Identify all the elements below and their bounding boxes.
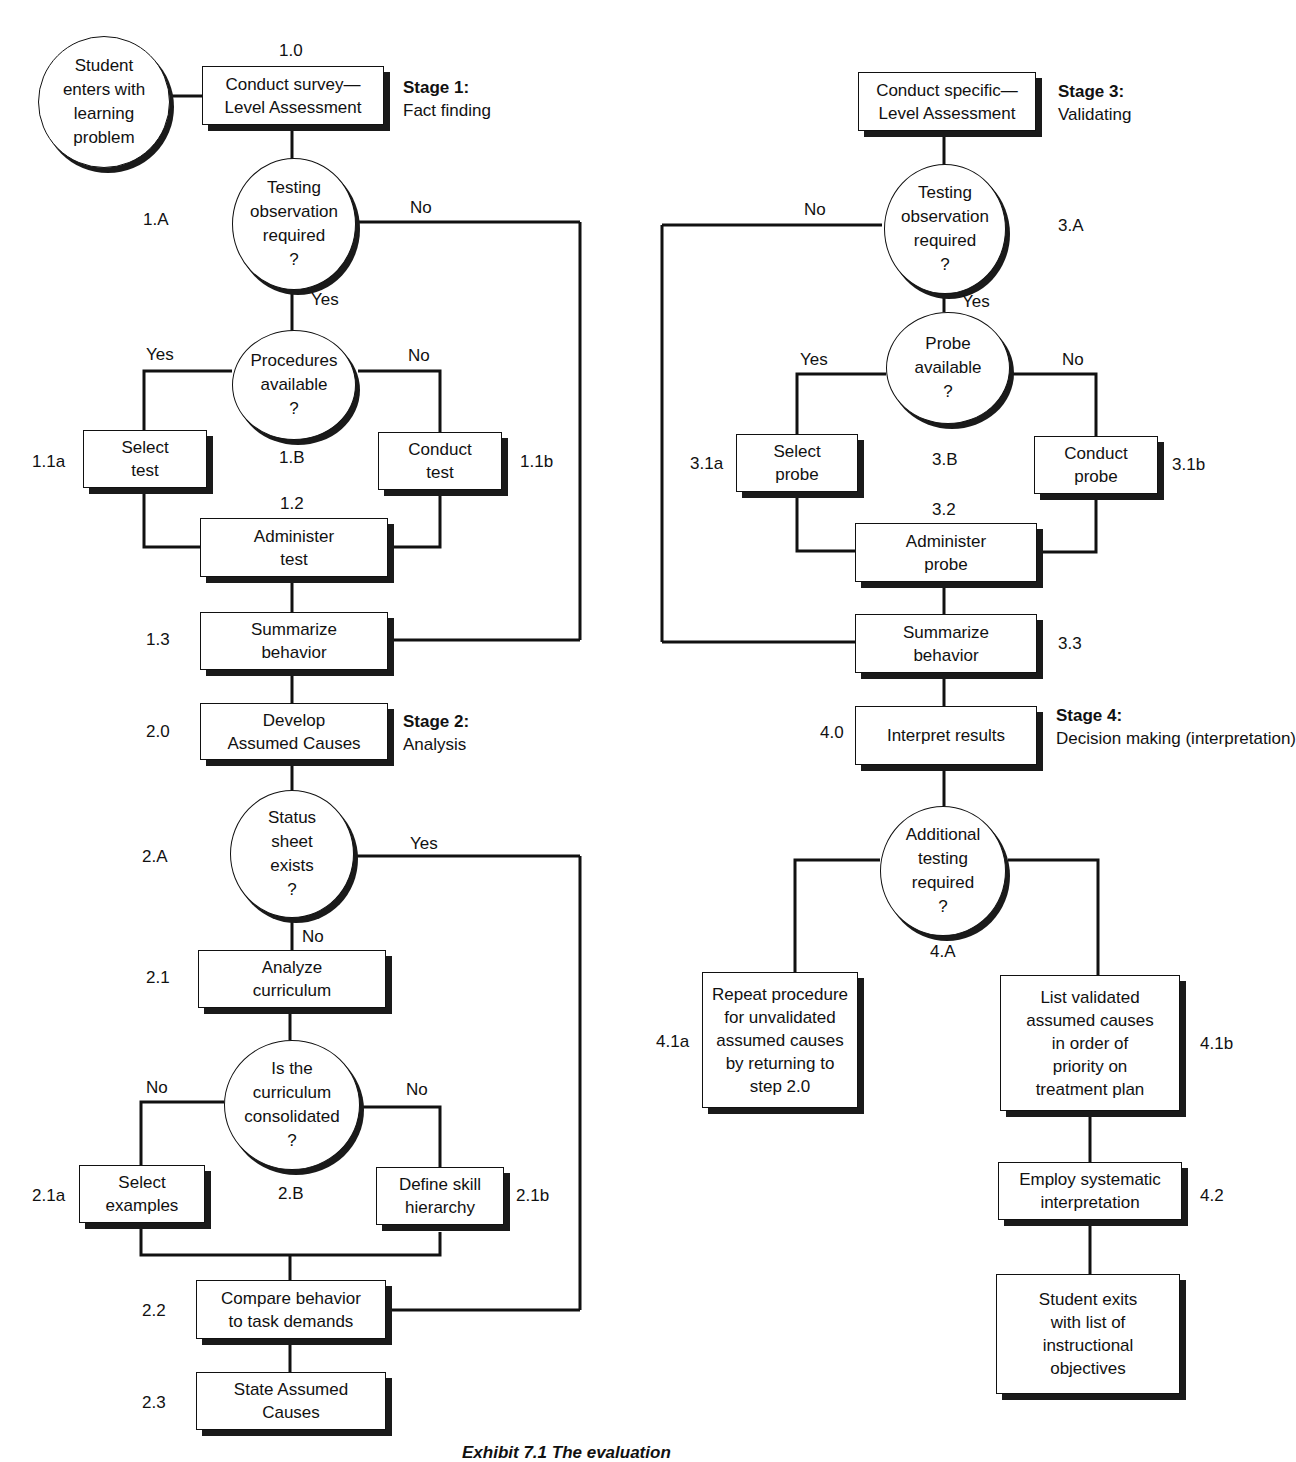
node-id-2-0: 2.0 — [146, 722, 170, 742]
node-3-1a-select-probe: Select probe — [736, 434, 858, 492]
node-text: Is the curriculum consolidated ? — [244, 1057, 339, 1153]
node-3-0-conduct-specific: Conduct specific— Level Assessment — [858, 72, 1036, 131]
node-text: Conduct specific— Level Assessment — [876, 79, 1018, 125]
node-text: Summarize behavior — [251, 618, 337, 664]
node-2-2-compare-behavior: Compare behavior to task demands — [196, 1280, 386, 1339]
node-id-2-A: 2.A — [142, 847, 168, 867]
node-2-0-develop-assumed-causes: Develop Assumed Causes — [200, 703, 388, 760]
figure-caption: Exhibit 7.1 The evaluation — [462, 1443, 671, 1462]
decision-3-A-testing-required: Testing observation required ? — [884, 164, 1006, 294]
end-node-student-exits: Student exits with list of instructional… — [996, 1274, 1180, 1394]
edge-label-no: No — [406, 1080, 428, 1100]
stage-title: Stage 3: — [1058, 80, 1131, 103]
node-4-1b-list-validated-causes: List validated assumed causes in order o… — [1000, 975, 1180, 1111]
node-text: Repeat procedure for unvalidated assumed… — [712, 983, 848, 1098]
node-id-3-2: 3.2 — [932, 500, 956, 520]
decision-3-B-probe-available: Probe available ? — [886, 312, 1010, 424]
node-id-4-1a: 4.1a — [656, 1032, 689, 1052]
node-id-1-1a: 1.1a — [32, 452, 65, 472]
node-text: Procedures available ? — [251, 349, 338, 421]
stage-subtitle: Fact finding — [403, 101, 491, 120]
node-id-1-3: 1.3 — [146, 630, 170, 650]
node-text: Develop Assumed Causes — [227, 709, 360, 755]
node-id-4-1b: 4.1b — [1200, 1034, 1233, 1054]
stage-title: Stage 4: — [1056, 704, 1296, 727]
decision-1-A-testing-required: Testing observation required ? — [232, 158, 356, 290]
node-4-0-interpret-results: Interpret results — [855, 706, 1037, 765]
node-id-3-B: 3.B — [932, 450, 958, 470]
node-id-2-1b: 2.1b — [516, 1186, 549, 1206]
decision-2-A-status-sheet-exists: Status sheet exists ? — [230, 790, 354, 918]
stage-2-label: Stage 2:Analysis — [403, 710, 469, 756]
node-text: Select examples — [106, 1171, 179, 1217]
node-text: Conduct test — [408, 438, 471, 484]
stage-subtitle: Validating — [1058, 105, 1131, 124]
edge-label-no: No — [302, 927, 324, 947]
node-id-1-1b: 1.1b — [520, 452, 553, 472]
decision-1-B-procedures-available: Procedures available ? — [232, 330, 356, 440]
node-text: List validated assumed causes in order o… — [1026, 986, 1154, 1101]
node-text: Employ systematic interpretation — [1019, 1168, 1161, 1214]
stage-title: Stage 2: — [403, 710, 469, 733]
start-node-circle: Student enters with learning problem — [38, 36, 170, 168]
node-3-3-summarize-behavior: Summarize behavior — [855, 614, 1037, 673]
node-id-1-2: 1.2 — [280, 494, 304, 514]
edge-label-yes: Yes — [311, 290, 339, 310]
node-text: Conduct survey— Level Assessment — [224, 73, 361, 119]
node-id-2-3: 2.3 — [142, 1393, 166, 1413]
node-2-1-analyze-curriculum: Analyze curriculum — [198, 950, 386, 1008]
node-1-2-administer-test: Administer test — [200, 518, 388, 577]
node-text: Define skill hierarchy — [399, 1173, 481, 1219]
stage-title: Stage 1: — [403, 76, 491, 99]
node-text: Interpret results — [887, 724, 1005, 747]
edge-label-yes: Yes — [146, 345, 174, 365]
edge-label-no: No — [1062, 350, 1084, 370]
node-text: Administer test — [254, 525, 334, 571]
stage-subtitle: Analysis — [403, 735, 466, 754]
stage-subtitle: Decision making (interpretation) — [1056, 729, 1296, 748]
edge-label-no: No — [408, 346, 430, 366]
node-text: Summarize behavior — [903, 621, 989, 667]
edge-label-yes: Yes — [800, 350, 828, 370]
node-id-3-1a: 3.1a — [690, 454, 723, 474]
node-id-2-1: 2.1 — [146, 968, 170, 988]
node-id-3-1b: 3.1b — [1172, 455, 1205, 475]
node-4-2-employ-systematic-interpretation: Employ systematic interpretation — [998, 1162, 1182, 1220]
node-3-2-administer-probe: Administer probe — [855, 523, 1037, 582]
node-text: Testing observation required ? — [901, 181, 989, 277]
node-3-1b-conduct-probe: Conduct probe — [1034, 436, 1158, 494]
node-id-1-B: 1.B — [279, 448, 305, 468]
node-id-2-2: 2.2 — [142, 1301, 166, 1321]
node-2-3-state-assumed-causes: State Assumed Causes — [196, 1372, 386, 1430]
edge-label-no: No — [146, 1078, 168, 1098]
node-text: Status sheet exists ? — [268, 806, 316, 902]
decision-2-B-curriculum-consolidated: Is the curriculum consolidated ? — [224, 1040, 360, 1170]
node-2-1b-define-skill-hierarchy: Define skill hierarchy — [376, 1167, 504, 1225]
node-4-1a-repeat-procedure: Repeat procedure for unvalidated assumed… — [702, 972, 858, 1108]
node-text: Compare behavior to task demands — [221, 1287, 361, 1333]
node-text: Select test — [121, 436, 168, 482]
node-id-4-2: 4.2 — [1200, 1186, 1224, 1206]
stage-1-label: Stage 1:Fact finding — [403, 76, 491, 122]
node-1-1b-conduct-test: Conduct test — [378, 432, 502, 490]
edge-label-no: No — [804, 200, 826, 220]
decision-4-A-additional-testing: Additional testing required ? — [880, 806, 1006, 936]
node-text: Select probe — [773, 440, 820, 486]
node-id-2-1a: 2.1a — [32, 1186, 65, 1206]
node-id-3-3: 3.3 — [1058, 634, 1082, 654]
node-id-4-A: 4.A — [930, 942, 956, 962]
node-2-1a-select-examples: Select examples — [79, 1165, 205, 1223]
node-id-2-B: 2.B — [278, 1184, 304, 1204]
edge-label-yes: Yes — [962, 292, 990, 312]
node-id-1-0: 1.0 — [279, 41, 303, 61]
node-text: Student exits with list of instructional… — [1039, 1288, 1137, 1380]
edge-label-yes: Yes — [410, 834, 438, 854]
node-1-0-conduct-survey: Conduct survey— Level Assessment — [202, 66, 384, 125]
node-text: Probe available ? — [914, 332, 981, 404]
node-1-1a-select-test: Select test — [83, 430, 207, 488]
node-text: Additional testing required ? — [906, 823, 981, 919]
node-id-4-0: 4.0 — [820, 723, 844, 743]
stage-3-label: Stage 3:Validating — [1058, 80, 1131, 126]
node-text: Administer probe — [906, 530, 986, 576]
edge-label-no: No — [410, 198, 432, 218]
